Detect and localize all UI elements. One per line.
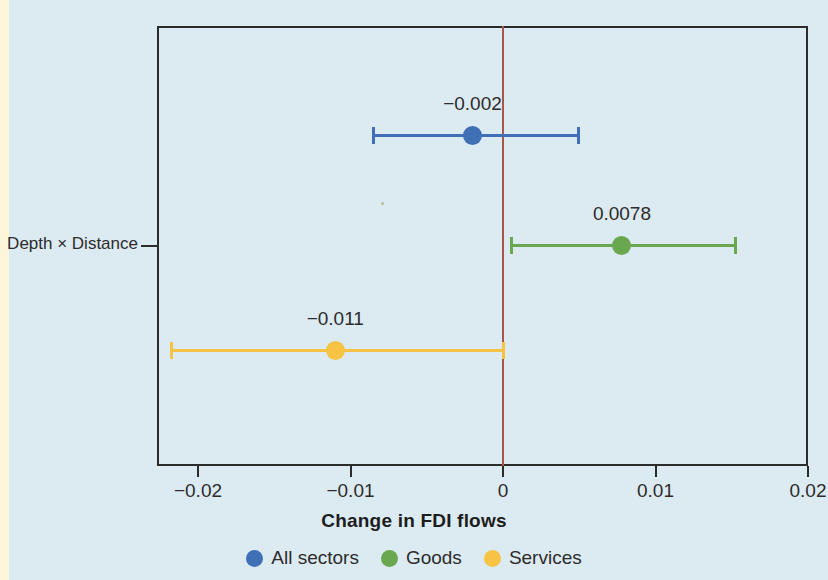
estimate-point xyxy=(463,126,482,145)
y-axis-tick-label: Depth × Distance xyxy=(7,234,138,254)
confidence-interval-cap-low xyxy=(510,237,513,254)
y-axis-tick xyxy=(141,245,157,247)
x-axis-tick xyxy=(655,466,657,477)
legend-label: Services xyxy=(509,547,582,569)
estimate-value-label: −0.002 xyxy=(443,93,502,115)
figure-canvas: Depth × Distance −0.02−0.0100.010.02 −0.… xyxy=(0,0,828,580)
legend-label: Goods xyxy=(406,547,462,569)
confidence-interval-cap-high xyxy=(502,342,505,359)
x-axis-tick-label: −0.02 xyxy=(153,480,243,502)
x-axis-tick-label: 0 xyxy=(458,480,548,502)
x-axis-tick xyxy=(502,466,504,477)
legend-item-all-sectors: All sectors xyxy=(246,547,359,569)
estimate-value-label: 0.0078 xyxy=(593,203,651,225)
page-edge-strip xyxy=(0,0,9,580)
estimate-point xyxy=(326,341,345,360)
x-axis-title: Change in FDI flows xyxy=(0,510,828,532)
estimate-value-label: −0.011 xyxy=(307,308,364,330)
legend-swatch-icon xyxy=(381,550,398,567)
legend-swatch-icon xyxy=(246,550,263,567)
legend-item-services: Services xyxy=(484,547,582,569)
legend-label: All sectors xyxy=(271,547,359,569)
x-axis-tick-label: −0.01 xyxy=(306,480,396,502)
scan-artifact-speck xyxy=(381,202,384,205)
x-axis-tick xyxy=(197,466,199,477)
x-axis-tick xyxy=(807,466,809,477)
legend-swatch-icon xyxy=(484,550,501,567)
legend: All sectorsGoodsServices xyxy=(0,547,828,569)
confidence-interval-cap-low xyxy=(170,342,173,359)
confidence-interval-cap-low xyxy=(372,127,375,144)
confidence-interval-cap-high xyxy=(577,127,580,144)
legend-item-goods: Goods xyxy=(381,547,462,569)
zero-reference-line xyxy=(502,26,504,466)
confidence-interval-cap-high xyxy=(734,237,737,254)
x-axis-tick-label: 0.01 xyxy=(611,480,701,502)
x-axis-tick-label: 0.02 xyxy=(763,480,828,502)
x-axis-tick xyxy=(350,466,352,477)
